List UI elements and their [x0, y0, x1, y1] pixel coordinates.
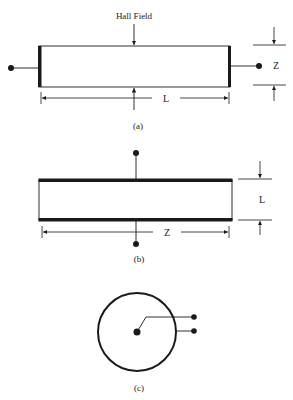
length-label-b: Z [164, 227, 170, 238]
top-terminal-dot [133, 150, 139, 156]
panel-c: (c) [98, 293, 197, 393]
top-electrode [39, 179, 233, 183]
right-electrode [228, 46, 231, 87]
hall-field-label: Hall Field [116, 11, 153, 21]
center-lead [137, 317, 194, 332]
bottom-terminal-dot [133, 241, 139, 247]
panel-a: Hall Field L Z (a) [8, 11, 286, 131]
bar-sample-a [39, 46, 230, 87]
caption-c: (c) [134, 383, 144, 393]
length-label-a: L [163, 93, 169, 104]
panel-b: Z L (b) [39, 150, 273, 264]
center-terminal-dot [191, 314, 197, 320]
caption-a: (a) [133, 121, 143, 131]
left-terminal-dot [8, 65, 14, 71]
hall-geometry-figure: Hall Field L Z (a) [0, 0, 293, 400]
thickness-label-b: L [259, 194, 265, 205]
caption-b: (b) [134, 254, 145, 264]
left-electrode [38, 46, 42, 87]
bottom-electrode [39, 218, 233, 222]
bar-sample-b [39, 180, 232, 220]
right-terminal-dot [256, 63, 262, 69]
thickness-label-a: Z [273, 60, 279, 71]
ring-terminal-dot [191, 328, 197, 334]
